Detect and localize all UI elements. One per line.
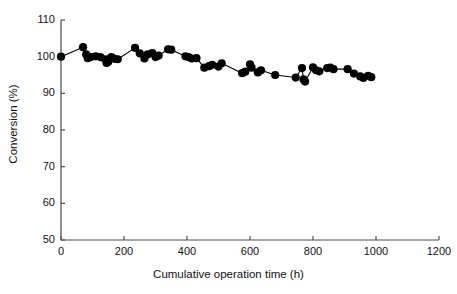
x-tick-label: 1200 [419,246,457,257]
y-tick-label: 100 [25,51,55,62]
chart-figure: 5060708090100110 020040060080010001200 C… [0,0,457,294]
y-tick-label: 50 [25,234,55,245]
x-tick-label: 800 [293,246,333,257]
x-tick-label: 400 [167,246,207,257]
series-points [57,43,375,86]
y-tick-label: 110 [25,14,55,25]
axes [61,20,439,240]
y-axis-title: Conversion (%) [7,64,19,184]
x-axis-title: Cumulative operation time (h) [0,268,457,280]
y-tick-label: 90 [25,87,55,98]
x-tick-label: 1000 [356,246,396,257]
x-tick-label: 200 [104,246,144,257]
y-tick-label: 80 [25,124,55,135]
y-tick-label: 60 [25,197,55,208]
x-tick-label: 0 [41,246,81,257]
y-axis-title-wrap: Conversion (%) [0,0,1,1]
axis-ticks [61,20,439,240]
x-tick-label: 600 [230,246,270,257]
y-tick-label: 70 [25,161,55,172]
